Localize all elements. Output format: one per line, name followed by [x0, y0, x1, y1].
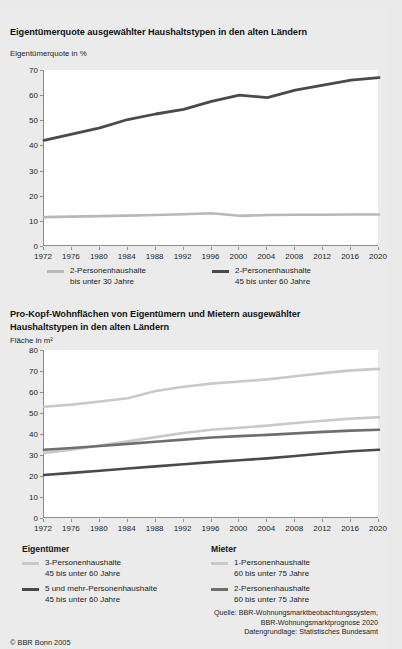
legend-item: 2-Personenhaushalte bis unter 30 Jahre [47, 266, 207, 287]
y-tick-mark [40, 413, 43, 414]
chart1-legend-col-2: 2-Personenhaushalte 45 bis unter 60 Jahr… [212, 266, 382, 292]
legend-label-line2: 45 bis unter 60 Jahre [45, 595, 120, 604]
x-tick-mark [183, 519, 184, 522]
legend-label-line2: 60 bis unter 75 Jahre [234, 569, 309, 578]
x-tick-label: 1972 [28, 252, 58, 261]
x-tick-label: 1984 [112, 252, 142, 261]
series-line [44, 78, 379, 141]
x-tick-label: 2004 [251, 524, 281, 533]
y-tick-mark [40, 455, 43, 456]
legend-label: 2-Personenhaushalte 45 bis unter 60 Jahr… [235, 266, 311, 287]
y-tick-label: 40 [16, 430, 38, 439]
legend-swatch-icon [22, 588, 39, 591]
y-tick-mark [40, 70, 43, 71]
x-tick-label: 2000 [223, 252, 253, 261]
y-tick-label: 0 [16, 242, 38, 251]
series-line [44, 369, 379, 407]
x-tick-label: 1972 [28, 524, 58, 533]
series-line [44, 450, 379, 475]
x-tick-mark [294, 519, 295, 522]
y-tick-mark [40, 120, 43, 121]
y-tick-label: 50 [16, 409, 38, 418]
legend-swatch-icon [212, 270, 229, 273]
legend-label: 3-Personenhaushalte 45 bis unter 60 Jahr… [45, 558, 121, 579]
legend-group-heading: Eigentümer [22, 544, 212, 554]
y-tick-mark [40, 196, 43, 197]
y-tick-label: 0 [16, 514, 38, 523]
y-tick-mark [40, 497, 43, 498]
source-note: Quelle: BBR-Wohnungsmarktbeobachtungssys… [214, 608, 378, 637]
x-tick-label: 1988 [140, 524, 170, 533]
x-tick-mark [71, 519, 72, 522]
legend-label: 5 und mehr-Personenhaushalte 45 bis unte… [45, 584, 157, 605]
x-tick-mark [322, 519, 323, 522]
x-tick-mark [238, 519, 239, 522]
x-tick-label: 1988 [140, 252, 170, 261]
x-tick-mark [294, 247, 295, 250]
legend-label-line1: 5 und mehr-Personenhaushalte [45, 584, 157, 593]
x-tick-mark [43, 247, 44, 250]
x-tick-mark [350, 519, 351, 522]
y-tick-mark [40, 392, 43, 393]
x-tick-mark [99, 247, 100, 250]
x-tick-mark [155, 247, 156, 250]
legend-group-heading: Mieter [211, 544, 386, 554]
series-line [44, 213, 379, 217]
chart2-canvas [43, 350, 378, 518]
y-tick-label: 50 [16, 116, 38, 125]
legend-label-line2: 45 bis unter 60 Jahre [45, 569, 120, 578]
x-tick-label: 1976 [56, 252, 86, 261]
legend-item: 2-Personenhaushalte 60 bis unter 75 Jahr… [211, 584, 386, 605]
x-tick-label: 2016 [335, 524, 365, 533]
x-tick-label: 2008 [279, 252, 309, 261]
legend-item: 2-Personenhaushalte 45 bis unter 60 Jahr… [212, 266, 382, 287]
source-line-3: Datengrundlage: Statistisches Bundesamt [214, 627, 378, 637]
y-tick-label: 20 [16, 472, 38, 481]
x-tick-label: 1992 [168, 252, 198, 261]
chart1-title: Eigentümerquote ausgewählter Haushaltsty… [10, 26, 382, 39]
y-tick-mark [40, 434, 43, 435]
legend-swatch-icon [22, 562, 39, 565]
legend-label-line2: bis unter 30 Jahre [70, 277, 134, 286]
chart2-title-line1: Pro-Kopf-Wohnflächen von Eigentümern und… [10, 309, 300, 319]
y-tick-mark [40, 171, 43, 172]
y-tick-label: 60 [16, 388, 38, 397]
x-tick-mark [238, 247, 239, 250]
chart1-canvas [43, 70, 378, 246]
legend-label-line2: 45 bis unter 60 Jahre [235, 277, 310, 286]
y-tick-mark [40, 350, 43, 351]
y-tick-mark [40, 371, 43, 372]
x-tick-label: 1984 [112, 524, 142, 533]
x-tick-label: 2004 [251, 252, 281, 261]
chart2-legend-group-mieter: Mieter 1-Personenhaushalte 60 bis unter … [211, 544, 386, 610]
y-tick-label: 10 [16, 216, 38, 225]
x-tick-mark [127, 247, 128, 250]
x-tick-mark [99, 519, 100, 522]
legend-label-line1: 2-Personenhaushalte [234, 584, 310, 593]
x-tick-label: 2008 [279, 524, 309, 533]
y-tick-label: 60 [16, 91, 38, 100]
y-tick-label: 70 [16, 66, 38, 75]
x-tick-label: 2012 [307, 524, 337, 533]
chart2-title-line2: Haushaltstypen in den alten Ländern [10, 322, 169, 332]
x-tick-label: 1992 [168, 524, 198, 533]
legend-label: 2-Personenhaushalte bis unter 30 Jahre [70, 266, 146, 287]
legend-label-line1: 1-Personenhaushalte [234, 558, 310, 567]
chart2-plot-area: 01020304050607080 1972197619801984198819… [0, 342, 388, 537]
y-tick-label: 30 [16, 451, 38, 460]
x-tick-mark [378, 519, 379, 522]
chart1-lines [44, 70, 379, 246]
x-tick-mark [71, 247, 72, 250]
legend-label-line1: 2-Personenhaushalte [235, 266, 311, 275]
x-tick-label: 2016 [335, 252, 365, 261]
x-tick-label: 2020 [363, 252, 393, 261]
y-tick-label: 20 [16, 191, 38, 200]
x-tick-label: 2000 [223, 524, 253, 533]
y-tick-mark [40, 476, 43, 477]
copyright-note: © BBR Bonn 2005 [10, 638, 71, 647]
chart1-legend-col-1: 2-Personenhaushalte bis unter 30 Jahre [47, 266, 207, 292]
y-tick-label: 10 [16, 493, 38, 502]
legend-label-line2: 60 bis unter 75 Jahre [234, 595, 309, 604]
legend-label: 2-Personenhaushalte 60 bis unter 75 Jahr… [234, 584, 310, 605]
chart1-axis-caption: Eigentümerquote in % [10, 48, 87, 59]
